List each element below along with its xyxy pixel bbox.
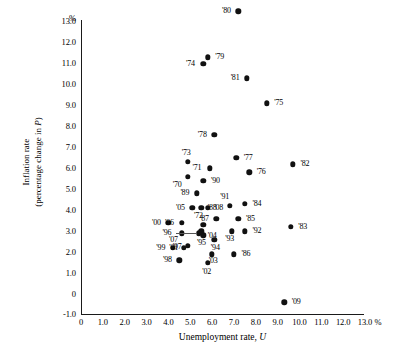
data-point-label: '83 <box>298 223 307 231</box>
x-axis-tick-11-0: 11.0 <box>309 317 333 327</box>
data-point <box>212 132 217 137</box>
data-point-label: '06 <box>165 219 174 227</box>
x-axis-tick-6-0: 6.0 <box>200 317 224 327</box>
data-point-label: '08 <box>214 204 223 212</box>
x-axis-tick-0: 0 <box>69 317 93 327</box>
data-point-label: '07 <box>169 236 178 244</box>
data-point <box>205 55 210 60</box>
x-axis-title-text: Unemployment rate, <box>179 332 259 342</box>
data-point <box>244 76 249 81</box>
y-axis-tick-10-0: 10.0 <box>42 80 76 89</box>
data-point-label: '77 <box>244 154 253 162</box>
data-point-label: '75 <box>274 99 283 107</box>
data-point-label: '91 <box>220 193 229 201</box>
y-axis-tick-11-0: 11.0 <box>42 59 76 68</box>
data-point <box>181 245 186 250</box>
data-point-label: '82 <box>301 160 310 168</box>
scatter-plot-figure: % 13.012.011.010.09.08.07.06.05.04.03.02… <box>0 0 396 360</box>
data-point <box>185 174 190 179</box>
data-point <box>194 191 199 196</box>
y-axis-title-line2-suffix: ) <box>33 117 43 120</box>
data-point <box>290 161 295 166</box>
data-point-label: '92 <box>252 227 261 235</box>
data-point-label: '80 <box>222 7 231 15</box>
y-axis-tick-3-0: 3.0 <box>42 227 76 236</box>
data-point <box>201 222 206 227</box>
data-point <box>214 216 219 221</box>
data-point-label: '74 <box>186 60 195 68</box>
y-axis-tick-1-0: 1.0 <box>42 269 76 278</box>
y-axis-tick-8-0: 8.0 <box>42 122 76 131</box>
y-axis-tick-0: 0 <box>42 290 76 299</box>
data-point-label: '76 <box>257 168 266 176</box>
data-point <box>227 203 232 208</box>
data-point <box>201 178 206 183</box>
data-point-label: '04 <box>208 232 217 240</box>
x-axis-tick-4-0: 4.0 <box>156 317 180 327</box>
data-point-label: '03 <box>209 257 218 265</box>
data-point-label: '73 <box>182 149 191 157</box>
data-point <box>247 170 252 175</box>
data-point-label: '78 <box>198 131 207 139</box>
x-axis-tick-1-0: 1.0 <box>91 317 115 327</box>
label-leader-line <box>176 233 196 234</box>
y-axis-tick-7-0: 7.0 <box>42 143 76 152</box>
data-point-label: '90 <box>211 177 220 185</box>
x-axis-title-italic: U <box>259 332 266 342</box>
data-point <box>231 251 236 256</box>
y-axis-tick-6-0: 6.0 <box>42 164 76 173</box>
x-axis-tick-10-0: 10.0 <box>288 317 312 327</box>
y-axis-tick-5-0: 5.0 <box>42 185 76 194</box>
data-point-label: '89 <box>180 189 189 197</box>
data-point <box>201 61 206 66</box>
data-point-label: '98 <box>163 256 172 264</box>
data-point-label: '02 <box>202 268 211 276</box>
x-axis-tick-8-0: 8.0 <box>244 317 268 327</box>
y-axis-tick-9-0: 9.0 <box>42 101 76 110</box>
data-point <box>236 216 241 221</box>
x-axis-tick-2-0: 2.0 <box>113 317 137 327</box>
data-point <box>264 101 269 106</box>
x-axis-tick-3-0: 3.0 <box>135 317 159 327</box>
data-point <box>236 8 241 13</box>
data-point <box>242 201 247 206</box>
data-point-label: '93 <box>225 235 234 243</box>
data-point-label: '71 <box>192 164 201 172</box>
y-axis-title-line2-prefix: (percentage change in <box>33 126 43 207</box>
data-point-label: '87 <box>200 215 209 223</box>
data-point-label: '84 <box>252 200 261 208</box>
y-axis-title-line1: Inflation rate <box>21 139 31 186</box>
data-point <box>242 228 247 233</box>
data-point <box>185 243 190 248</box>
data-point <box>288 224 293 229</box>
y-axis-title: Inflation rate (percentage change in P) <box>20 82 44 242</box>
data-point-label: '05 <box>176 204 185 212</box>
data-point-label: '99 <box>156 244 165 252</box>
y-axis-title-line2-italic: P <box>33 120 43 126</box>
y-axis-line <box>81 20 82 314</box>
data-point <box>201 233 206 238</box>
x-axis-unit-label: % <box>366 317 390 327</box>
data-point-label: '85 <box>246 215 255 223</box>
data-point-label: '86 <box>242 250 251 258</box>
x-axis-tick-7-0: 7.0 <box>222 317 246 327</box>
data-point <box>185 159 190 164</box>
data-point <box>229 228 234 233</box>
x-axis-tick-9-0: 9.0 <box>266 317 290 327</box>
data-point <box>198 205 203 210</box>
data-point <box>233 155 238 160</box>
data-point-label: '79 <box>215 53 224 61</box>
data-point <box>177 258 182 263</box>
x-axis-tick-12-0: 12.0 <box>331 317 355 327</box>
x-axis-tick-5-0: 5.0 <box>178 317 202 327</box>
data-point-label: '95 <box>197 239 206 247</box>
data-point <box>207 166 212 171</box>
data-point-label: '00 <box>152 219 161 227</box>
x-axis-title: Unemployment rate, U <box>81 332 364 342</box>
y-axis-tick-labels: % 13.012.011.010.09.08.07.06.05.04.03.02… <box>40 0 76 330</box>
data-point-label: '01 <box>169 244 178 252</box>
data-point-label: '09 <box>292 298 301 306</box>
data-point-label: '94 <box>211 244 220 252</box>
data-point-label: '81 <box>231 74 240 82</box>
y-axis-tick-12-0: 12.0 <box>42 38 76 47</box>
